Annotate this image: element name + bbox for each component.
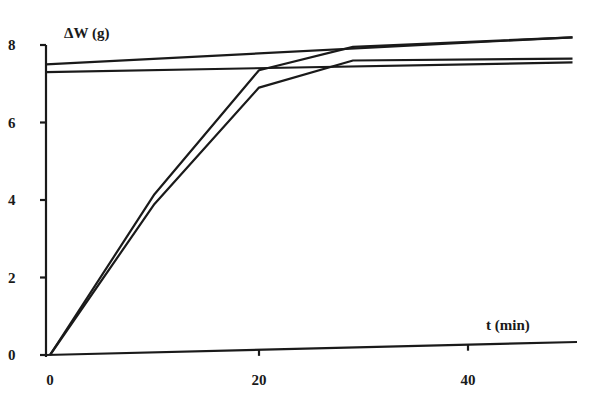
y-tick-label: 4 bbox=[8, 192, 16, 208]
y-tick-label: 6 bbox=[8, 115, 16, 131]
x-tick-label: 0 bbox=[46, 372, 54, 388]
x-tick-label: 20 bbox=[252, 372, 267, 388]
y-tick-label: 0 bbox=[8, 347, 16, 363]
series-lines bbox=[46, 37, 573, 355]
y-axis-label: ΔW (g) bbox=[64, 25, 109, 42]
x-tick-label: 40 bbox=[461, 372, 476, 388]
series-curve-1 bbox=[50, 37, 573, 355]
x-axis-label: t (min) bbox=[486, 317, 530, 334]
chart: 0246802040 ΔW (g) t (min) bbox=[0, 0, 594, 408]
axes bbox=[40, 45, 577, 357]
x-axis-line bbox=[46, 342, 577, 355]
y-tick-label: 8 bbox=[8, 37, 16, 53]
y-tick-label: 2 bbox=[8, 270, 16, 286]
series-curve-2 bbox=[50, 59, 573, 355]
series-asymptote-lower bbox=[46, 62, 573, 72]
